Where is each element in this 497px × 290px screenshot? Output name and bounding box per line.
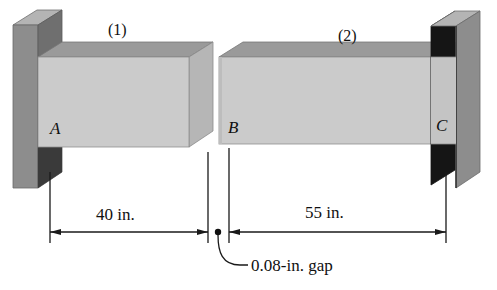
- member-2-label: (2): [338, 28, 357, 44]
- figure-canvas: [0, 0, 497, 290]
- axial-members-figure: (1) (2) A B C 40 in. 55 in. 0.08-in. gap: [0, 0, 497, 290]
- member-1-bar: [38, 42, 213, 147]
- member-2-left-edge: [219, 57, 222, 144]
- member-1-front-face: [38, 57, 189, 147]
- left-wall-front-face: [13, 25, 38, 188]
- member-2-bar: [219, 42, 455, 144]
- joint-label-c: C: [436, 117, 447, 134]
- member-1-top-face: [38, 42, 213, 57]
- member-1-end-face: [189, 42, 213, 147]
- gap-callout-label: 0.08-in. gap: [251, 257, 333, 274]
- dimension-label-40: 40 in.: [96, 206, 135, 223]
- joint-label-a: A: [50, 120, 60, 137]
- right-wall-front-face: [456, 11, 480, 188]
- gap-leader-line: [218, 235, 248, 265]
- gap-point: [215, 229, 221, 235]
- member-1-label: (1): [108, 22, 127, 38]
- member-2-top-face: [219, 42, 455, 57]
- joint-label-b: B: [228, 119, 238, 136]
- right-wall: [431, 11, 480, 188]
- member-2-front-face: [219, 57, 431, 144]
- dimension-label-55: 55 in.: [305, 204, 344, 221]
